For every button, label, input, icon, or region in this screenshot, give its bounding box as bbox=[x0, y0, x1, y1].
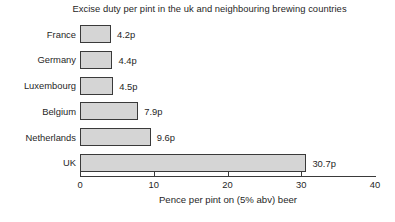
y-axis-tick-label: France bbox=[0, 25, 76, 43]
bar-row: 7.9p bbox=[80, 102, 375, 120]
y-axis-tick-label: Netherlands bbox=[0, 128, 76, 146]
bar-row: 30.7p bbox=[80, 154, 375, 172]
bar bbox=[80, 128, 151, 146]
y-axis-tick-label: UK bbox=[0, 154, 76, 172]
x-axis-line bbox=[80, 176, 376, 177]
bar-value-label: 7.9p bbox=[144, 106, 162, 117]
x-axis-tick-label: 20 bbox=[222, 179, 232, 190]
bar-series: 4.2p 4.4p 4.5p 7.9p 9.6p 30.7p bbox=[80, 25, 375, 172]
bar-row: 4.5p bbox=[80, 77, 375, 95]
bar-value-label: 9.6p bbox=[157, 132, 175, 143]
plot-area: 4.2p 4.4p 4.5p 7.9p 9.6p 30.7p bbox=[80, 25, 375, 172]
bar-row: 9.6p bbox=[80, 128, 375, 146]
chart-title: Excise duty per pint in the uk and neigh… bbox=[0, 3, 395, 15]
x-axis-tick-label: 10 bbox=[149, 179, 159, 190]
bar-row: 4.2p bbox=[80, 25, 375, 43]
bar bbox=[80, 154, 306, 172]
y-axis-category-labels: France Germany Luxembourg Belgium Nether… bbox=[0, 25, 76, 172]
bar-chart-figure: Excise duty per pint in the uk and neigh… bbox=[0, 0, 395, 222]
bar-value-label: 30.7p bbox=[312, 157, 335, 168]
bar bbox=[80, 51, 112, 69]
bar bbox=[80, 25, 111, 43]
y-axis-tick-label: Germany bbox=[0, 51, 76, 69]
y-axis-tick-label: Belgium bbox=[0, 102, 76, 120]
bar bbox=[80, 77, 113, 95]
bar-value-label: 4.2p bbox=[117, 29, 135, 40]
bar-value-label: 4.4p bbox=[118, 54, 136, 65]
y-axis-tick-label: Luxembourg bbox=[0, 77, 76, 95]
bar-row: 4.4p bbox=[80, 51, 375, 69]
x-axis-tick bbox=[301, 172, 302, 176]
bar bbox=[80, 102, 138, 120]
figure-caption bbox=[8, 213, 388, 222]
x-axis-tick-label: 40 bbox=[370, 179, 380, 190]
x-axis-tick-label: 30 bbox=[296, 179, 306, 190]
x-axis-tick bbox=[228, 172, 229, 176]
x-axis-tick-label: 0 bbox=[77, 179, 82, 190]
x-axis-title: Pence per pint on (5% abv) beer bbox=[80, 194, 376, 206]
bar-value-label: 4.5p bbox=[119, 80, 137, 91]
x-axis-tick bbox=[154, 172, 155, 176]
